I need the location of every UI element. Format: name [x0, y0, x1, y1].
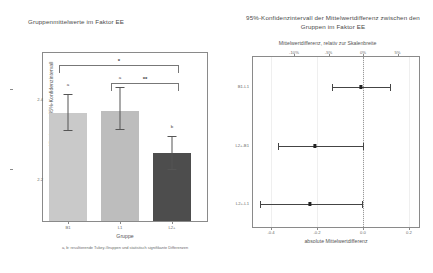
bar-chart-plot-area: Mittelwert mit 95%-Konfidenzintervall 2.… [42, 52, 208, 222]
figure-root: Gruppenmittelwerte im Faktor EE Mittelwe… [0, 0, 433, 273]
bar-l1-errorbar [120, 87, 121, 129]
ci-point-b1-l1 [359, 85, 362, 88]
top-tick-5pct: 5% [394, 50, 400, 55]
bottom-tick--0-4: -0.4 [267, 230, 274, 235]
bar-l1-group-letter: a [119, 75, 121, 80]
top-tick-0pct: 0% [360, 50, 366, 55]
left-panel: Gruppenmittelwerte im Faktor EE Mittelwe… [0, 0, 222, 273]
ci-plot-area: -10% -5% 0% 5% -0.4 -0.2 0.0 0.2 B1-L1 [252, 56, 420, 228]
right-x-axis-label: absolute Mittelwertdifferenz [253, 238, 419, 244]
bar-b1-errorbar [68, 94, 69, 130]
bottom-tick-0-2: 0.2 [406, 230, 412, 235]
bar-l2plus: b L2+ [153, 153, 191, 221]
ci-point-l2plus-l1 [308, 202, 311, 205]
bar-b1: a B1 [49, 113, 87, 221]
significance-bracket-b1-l2plus: * [59, 65, 179, 73]
x-tick-b1: B1 [65, 225, 70, 230]
top-tick--10pct: -10% [289, 50, 299, 55]
right-panel: 95%-Konfidenzintervall der Mittelwertdif… [222, 0, 433, 273]
bottom-tick-0-0: 0.0 [360, 230, 366, 235]
left-chart-title: Gruppenmittelwerte im Faktor EE [28, 18, 124, 25]
ci-row-label-b1-l1: B1-L1 [238, 84, 249, 89]
bottom-tick--0-2: -0.2 [313, 230, 320, 235]
x-tick-l1: L1 [118, 225, 123, 230]
ci-row-label-l2plus-b1: L2+-B1 [235, 143, 249, 148]
ci-row-label-l2plus-l1: L2+-L1 [236, 201, 249, 206]
bar-l2plus-group-letter: b [171, 124, 173, 129]
ci-point-l2plus-b1 [313, 144, 316, 147]
bar-b1-group-letter: a [67, 82, 69, 87]
x-tick-l2plus: L2+ [168, 225, 175, 230]
bar-l2plus-errorbar [172, 136, 173, 169]
top-tick--5pct: -5% [325, 50, 332, 55]
y-tick-2-2: 2.2 [13, 169, 43, 187]
right-top-axis-label: Mittelwertdifferenz, relativ zur Skalenb… [222, 40, 433, 46]
y-tick-2-4: 2.4 [13, 89, 43, 107]
left-x-axis-label: Gruppe [43, 233, 207, 239]
right-chart-title: 95%-Konfidenzintervall der Mittelwertdif… [234, 14, 432, 31]
bar-l1: a L1 [101, 111, 139, 221]
left-chart-footnote: a, b: resultierende Tukey-Gruppen und st… [43, 245, 207, 250]
